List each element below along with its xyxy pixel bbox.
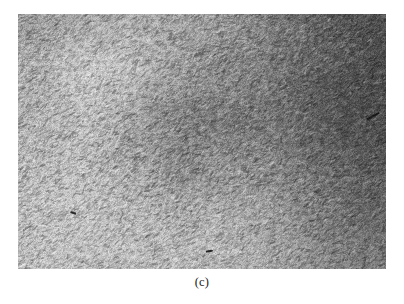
- micrograph-image: [18, 14, 386, 269]
- figure-caption: (c): [0, 274, 404, 290]
- figure-root: (c): [0, 0, 404, 304]
- micrograph-canvas: [18, 14, 386, 269]
